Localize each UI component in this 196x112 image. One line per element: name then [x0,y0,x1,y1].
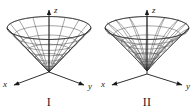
y-axis-label: y [185,81,190,91]
x-axis-label: x [2,79,7,89]
figure-block-one: z x y I [0,0,98,112]
axis-lines [112,10,182,85]
y-axis-line [49,72,84,85]
axis-lines [14,10,84,85]
x-axis-line [14,72,49,85]
figure-two-diagram: z x y [98,0,196,100]
figure-two-caption: II [98,95,196,109]
figure-one-caption: I [0,95,98,109]
figure-one-diagram: z x y [0,0,98,100]
z-axis-label: z [151,5,156,15]
figure-panel: z x y I [0,0,196,112]
y-axis-label: y [87,81,92,91]
z-axis-label: z [53,5,58,15]
y-axis-line [147,74,182,85]
x-axis-label: x [100,79,105,89]
x-axis-line [112,74,147,85]
figure-block-two: z x y II [98,0,196,112]
